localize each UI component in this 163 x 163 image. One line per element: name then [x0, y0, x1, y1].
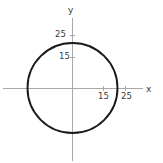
x-axis-label: x	[146, 85, 151, 94]
y-tick-label-15: 15	[59, 52, 70, 61]
y-axis-label: y	[68, 6, 73, 15]
circle-plot-figure: y x 25 15 15 25	[0, 0, 163, 163]
plot-canvas	[0, 0, 163, 163]
y-tick-label-25: 25	[55, 30, 66, 39]
x-tick-label-25: 25	[121, 92, 132, 101]
x-tick-label-15: 15	[98, 92, 109, 101]
